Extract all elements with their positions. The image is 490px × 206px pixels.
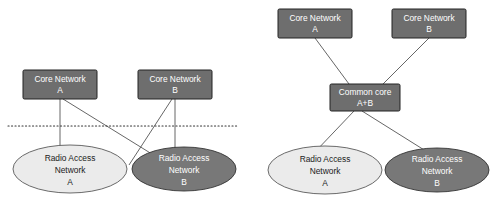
right-common-core-label-line1: Common core	[339, 87, 392, 97]
left-core-network-b-label-line2: B	[172, 85, 178, 95]
connector-right-cn-a-to-common	[315, 38, 349, 84]
left-panel-separate-cores: Radio Access Network A Radio Access Netw…	[8, 70, 237, 193]
network-architecture-diagram: Radio Access Network A Radio Access Netw…	[0, 0, 490, 206]
right-ran-b-label-line1: Radio Access	[412, 154, 463, 164]
left-core-network-a-label-line1: Core Network	[34, 74, 86, 84]
right-panel-common-core: Radio Access Network A Radio Access Netw…	[268, 9, 489, 194]
right-ran-a-label-line1: Radio Access	[300, 154, 351, 164]
right-ran-b-label-line2: Network	[422, 166, 454, 176]
left-core-network-b-node[interactable]: Core Network B	[138, 70, 212, 99]
left-ran-a-label-line2: Network	[55, 165, 87, 175]
right-ran-a-label-line3: A	[322, 178, 328, 188]
right-core-network-b-label-line1: Core Network	[403, 13, 455, 23]
right-ran-b-label-line3: B	[434, 178, 440, 188]
left-ran-a-label-line3: A	[67, 177, 73, 187]
right-core-network-b-node[interactable]: Core Network B	[392, 9, 466, 38]
left-ran-a-label-line1: Radio Access	[45, 153, 96, 163]
right-common-core-node[interactable]: Common core A+B	[330, 84, 400, 111]
connector-right-common-to-ran-b	[362, 111, 429, 153]
left-ran-b-label-line3: B	[181, 177, 187, 187]
right-core-network-a-label-line1: Core Network	[289, 13, 341, 23]
diagram-canvas: Radio Access Network A Radio Access Netw…	[0, 0, 490, 206]
left-core-network-a-label-line2: A	[57, 85, 63, 95]
left-ran-b-label-line2: Network	[169, 165, 201, 175]
right-ran-a-label-line2: Network	[310, 166, 342, 176]
left-ran-a-node[interactable]: Radio Access Network A	[13, 145, 127, 193]
left-core-network-a-node[interactable]: Core Network A	[23, 70, 97, 99]
right-common-core-label-line2: A+B	[357, 98, 373, 108]
left-ran-b-node[interactable]: Radio Access Network B	[132, 147, 236, 191]
left-ran-b-label-line1: Radio Access	[159, 153, 210, 163]
right-core-network-b-label-line2: B	[426, 24, 432, 34]
left-core-network-b-label-line1: Core Network	[149, 74, 201, 84]
right-ran-b-node[interactable]: Radio Access Network B	[385, 148, 489, 192]
right-core-network-a-label-line2: A	[312, 24, 318, 34]
right-core-network-a-node[interactable]: Core Network A	[278, 9, 352, 38]
connector-right-cn-b-to-common	[383, 38, 429, 84]
right-ran-a-node[interactable]: Radio Access Network A	[268, 146, 382, 194]
